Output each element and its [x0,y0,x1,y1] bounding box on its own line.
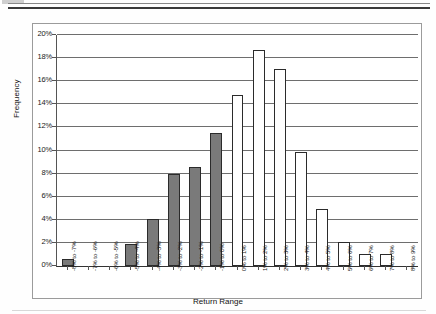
x-tick-label: -5% to -4% [133,241,140,271]
x-tick-label: -4% to -3% [155,241,162,271]
page-rule [8,7,430,9]
x-tick-mark [364,266,365,270]
y-tick-label: 2% [24,238,52,246]
x-tick-mark [343,266,344,270]
x-tick-mark [173,266,174,270]
x-tick-label: 3% to 4% [303,245,310,271]
bar [274,69,286,267]
x-tick-label: 5% to 6% [346,245,353,271]
x-tick-mark [152,266,153,270]
x-tick-label: 6% to 7% [367,245,374,271]
x-tick-mark [67,266,68,270]
x-tick-mark [406,266,407,270]
x-tick-mark [194,266,195,270]
y-tick-label: 0% [24,261,52,269]
x-tick-mark [258,266,259,270]
bar [253,50,265,266]
x-tick-mark [88,266,89,270]
scanned-page: Frequency 0%2%4%6%8%10%12%14%16%18%20% -… [0,0,436,314]
x-axis-title: Return Range [0,297,436,306]
x-tick-label: -8% to -7% [70,241,77,271]
plot-area [56,35,418,267]
x-tick-label: -1% to 0% [218,243,225,271]
x-tick-mark [279,266,280,270]
x-tick-label: 1% to 2% [261,245,268,271]
y-axis-title: Frequency [12,79,21,118]
y-tick-label: 14% [24,99,52,107]
x-tick-label: -3% to -2% [176,241,183,271]
x-tick-mark [130,266,131,270]
y-tick-label: 12% [24,122,52,130]
y-tick-label: 18% [24,53,52,61]
x-tick-mark [215,266,216,270]
x-tick-mark [237,266,238,270]
gridline [57,80,418,81]
x-tick-label: 0% to 1% [240,245,247,271]
x-tick-label: 7% to 8% [388,245,395,271]
x-tick-label: -2% to -1% [197,241,204,271]
x-tick-label: 8% to 9% [409,245,416,271]
x-tick-label: -7% to -6% [91,241,98,271]
y-tick-label: 16% [24,76,52,84]
x-tick-mark [321,266,322,270]
gridline [57,34,418,35]
bar [232,95,244,266]
y-tick-label: 6% [24,192,52,200]
x-tick-mark [385,266,386,270]
x-tick-label: 2% to 3% [282,245,289,271]
x-tick-label: -6% to -5% [112,241,119,271]
y-tick-label: 8% [24,169,52,177]
x-tick-mark [300,266,301,270]
x-tick-mark [109,266,110,270]
page-rule-thin [8,3,430,4]
gridline [57,57,418,58]
y-tick-label: 10% [24,146,52,154]
page-bottom-rule [12,310,426,311]
y-tick-label: 20% [24,30,52,38]
x-tick-label: 4% to 5% [324,245,331,271]
y-tick-label: 4% [24,215,52,223]
